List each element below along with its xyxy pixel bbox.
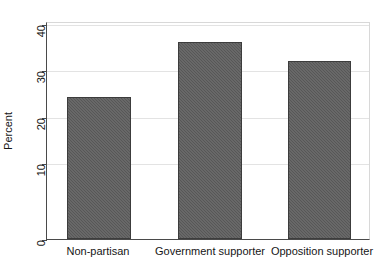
y-tick-label-40: 40 xyxy=(36,25,47,37)
x-category-label-government-supporter: Government supporter xyxy=(150,246,270,257)
bar-government-supporter[interactable] xyxy=(178,42,242,239)
plot-area: 40 30 20 10 0 xyxy=(46,22,370,240)
x-category-label-opposition-supporter: Opposition supporter xyxy=(264,246,380,257)
y-tick-label-20-wrap: 20 xyxy=(40,118,41,119)
bar-opposition-supporter[interactable] xyxy=(288,61,351,239)
y-tick-label-0-wrap: 0 xyxy=(40,240,41,241)
gridline-40 xyxy=(47,25,369,26)
y-tick-label-30: 30 xyxy=(36,71,47,83)
bar-non-partisan[interactable] xyxy=(67,97,131,239)
y-tick-label-0: 0 xyxy=(36,240,47,246)
y-tick-label-10: 10 xyxy=(36,164,47,176)
bar-chart-figure: Percent 40 30 20 10 0 No xyxy=(0,0,382,268)
y-tick-label-40-wrap: 40 xyxy=(40,25,41,26)
y-tick-label-10-wrap: 10 xyxy=(40,164,41,165)
y-tick-label-20: 20 xyxy=(36,118,47,130)
x-category-label-non-partisan: Non-partisan xyxy=(66,246,130,257)
y-tick-label-30-wrap: 30 xyxy=(40,71,41,72)
y-axis-title: Percent xyxy=(3,112,14,150)
